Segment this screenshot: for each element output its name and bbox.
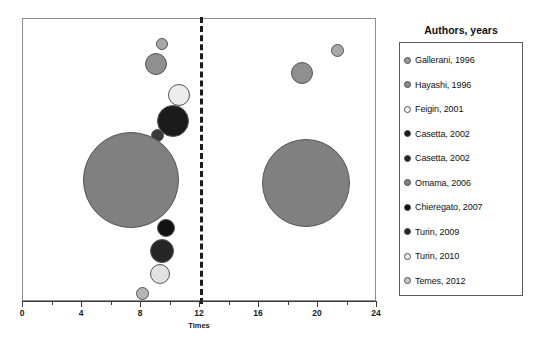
legend-item[interactable]: Turin, 2009 xyxy=(404,220,522,245)
bubble-chart-plot-area xyxy=(22,18,376,301)
bubble-hayashi-1996-left xyxy=(145,53,167,75)
legend-item-label: Chieregato, 2007 xyxy=(415,202,482,212)
x-tick-4 xyxy=(81,301,82,307)
bubble-turin-2009-left xyxy=(150,239,174,263)
legend-item-label: Casetta, 2002 xyxy=(415,129,470,139)
legend-item-label: Turin, 2010 xyxy=(415,251,459,261)
bubble-gallerani-1996-right xyxy=(331,44,344,57)
x-minor-tick-14 xyxy=(229,301,230,305)
bubble-temes-2012-left xyxy=(136,287,149,300)
x-tick-8 xyxy=(140,301,141,307)
bubble-omama-2006-left xyxy=(83,132,179,228)
bubble-chieregato-2007-left xyxy=(157,219,175,237)
legend-marker-icon xyxy=(404,81,411,88)
legend-title: Authors, years xyxy=(399,24,523,36)
legend-marker-icon xyxy=(404,179,411,186)
legend-item[interactable]: Gallerani, 1996 xyxy=(404,48,522,73)
legend-marker-icon xyxy=(404,106,411,113)
legend-item[interactable]: Casetta, 2002 xyxy=(404,146,522,171)
legend-marker-icon xyxy=(404,277,411,284)
legend-item[interactable]: Chieregato, 2007 xyxy=(404,195,522,220)
x-tick-24 xyxy=(376,301,377,307)
legend-item-label: Gallerani, 1996 xyxy=(415,55,475,65)
threshold-dashed-line xyxy=(200,17,203,304)
x-tick-label-20: 20 xyxy=(312,308,321,318)
legend-marker-icon xyxy=(404,155,411,162)
x-minor-tick-10 xyxy=(170,301,171,305)
legend-item[interactable]: Turin, 2010 xyxy=(404,244,522,269)
legend-item-label: Feigin, 2001 xyxy=(415,104,463,114)
x-minor-tick-6 xyxy=(111,301,112,305)
legend-item-label: Temes, 2012 xyxy=(415,276,465,286)
legend-marker-icon xyxy=(404,204,411,211)
x-tick-label-0: 0 xyxy=(20,308,25,318)
legend-item-label: Hayashi, 1996 xyxy=(415,80,471,90)
x-tick-label-16: 16 xyxy=(253,308,262,318)
x-tick-label-24: 24 xyxy=(371,308,380,318)
legend-marker-icon xyxy=(404,228,411,235)
bubble-omama-2006-right xyxy=(262,139,350,227)
x-minor-tick-22 xyxy=(347,301,348,305)
x-tick-0 xyxy=(22,301,23,307)
x-axis-title: Times xyxy=(0,321,398,330)
x-tick-16 xyxy=(258,301,259,307)
x-tick-label-12: 12 xyxy=(194,308,203,318)
legend-box: Gallerani, 1996Hayashi, 1996Feigin, 2001… xyxy=(399,42,523,296)
legend-marker-icon xyxy=(404,130,411,137)
x-minor-tick-18 xyxy=(288,301,289,305)
legend-item-label: Casetta, 2002 xyxy=(415,153,470,163)
bubble-gallerani-1996-left xyxy=(156,38,168,50)
bubble-feigin-2001-left xyxy=(168,84,190,106)
legend-item[interactable]: Casetta, 2002 xyxy=(404,122,522,147)
legend-marker-icon xyxy=(404,57,411,64)
legend-item[interactable]: Hayashi, 1996 xyxy=(404,73,522,98)
x-tick-label-8: 8 xyxy=(138,308,143,318)
bubble-turin-2010-left xyxy=(150,264,170,284)
legend-marker-icon xyxy=(404,253,411,260)
legend-item[interactable]: Omama, 2006 xyxy=(404,171,522,196)
bubble-layer xyxy=(23,19,375,300)
x-tick-12 xyxy=(199,301,200,307)
legend-item-label: Omama, 2006 xyxy=(415,178,471,188)
x-minor-tick-2 xyxy=(52,301,53,305)
legend-item[interactable]: Temes, 2012 xyxy=(404,269,522,294)
x-tick-20 xyxy=(317,301,318,307)
legend-item-label: Turin, 2009 xyxy=(415,227,459,237)
bubble-hayashi-1996-right xyxy=(291,62,313,84)
x-tick-label-4: 4 xyxy=(79,308,84,318)
legend-item[interactable]: Feigin, 2001 xyxy=(404,97,522,122)
